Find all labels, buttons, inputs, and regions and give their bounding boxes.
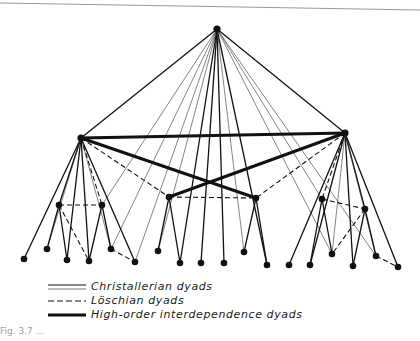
legend-label: High-order interdependence dyads: [91, 308, 303, 321]
christallerian-edge: [111, 29, 217, 249]
christallerian-edge: [322, 199, 332, 254]
christallerian-edge: [244, 198, 256, 252]
dashed-line-icon: [48, 296, 86, 306]
christallerian-edge: [310, 199, 322, 265]
christallerian-edge: [24, 138, 81, 259]
node-cb1: [155, 248, 162, 255]
legend-label: Löschian dyads: [91, 294, 184, 307]
christallerian-edge: [180, 29, 217, 263]
loschian-edge: [111, 249, 135, 262]
christallerian-edge: [158, 197, 169, 251]
legend: Christallerian dyads Löschian dyads High…: [48, 280, 303, 322]
legend-loschian: Löschian dyads: [48, 294, 303, 307]
node-rm2: [362, 206, 369, 213]
dyad-edges: [24, 29, 398, 267]
christallerian-edge: [365, 209, 376, 256]
node-L: [77, 134, 84, 141]
node-cb2: [177, 260, 184, 267]
christallerian-edge: [217, 29, 244, 252]
christallerian-edge: [217, 29, 224, 263]
node-cm1: [166, 194, 173, 201]
node-rb2: [307, 262, 314, 269]
node-lb2: [44, 246, 51, 253]
node-lb1: [21, 256, 28, 263]
node-T: [213, 25, 220, 32]
legend-label: Christallerian dyads: [91, 280, 213, 293]
thick-line-icon: [48, 310, 86, 320]
christallerian-edge: [345, 133, 398, 267]
legend-high-order: High-order interdependence dyads: [48, 308, 303, 321]
node-lm1: [56, 202, 63, 209]
figure-caption: Fig. 3.7 ...: [0, 326, 44, 336]
top-rule: [0, 3, 420, 10]
christallerian-edge: [345, 133, 353, 266]
node-cb4: [221, 260, 228, 267]
high-order-edge: [81, 133, 345, 138]
node-lb6: [132, 259, 139, 266]
christallerian-edge: [201, 29, 217, 263]
node-rb1: [286, 262, 293, 269]
christallerian-edge: [81, 138, 89, 261]
node-cb3: [198, 260, 205, 267]
node-rb6: [395, 264, 402, 271]
node-R: [341, 129, 348, 136]
christallerian-edge: [135, 29, 217, 262]
node-lb4: [86, 258, 93, 265]
node-lm2: [99, 202, 106, 209]
christallerian-edge: [81, 29, 217, 138]
node-rm1: [319, 196, 326, 203]
christallerian-edge: [102, 205, 111, 249]
node-cb6: [264, 262, 271, 269]
loschian-edge: [322, 199, 365, 209]
node-cb5: [241, 249, 248, 256]
node-rb3: [329, 251, 336, 258]
christallerian-edge: [169, 197, 180, 263]
loschian-edge: [169, 197, 256, 198]
high-order-edge: [81, 138, 256, 198]
node-lb3: [64, 257, 71, 264]
christallerian-edge: [256, 198, 267, 265]
node-cm2: [253, 195, 260, 202]
node-lb5: [108, 246, 115, 253]
node-rb4: [350, 263, 357, 270]
double-line-icon: [48, 282, 86, 292]
legend-christallerian: Christallerian dyads: [48, 280, 303, 293]
christallerian-edge: [47, 205, 59, 249]
christallerian-edge: [217, 29, 332, 254]
christallerian-edge: [89, 205, 102, 261]
node-rb5: [373, 253, 380, 260]
